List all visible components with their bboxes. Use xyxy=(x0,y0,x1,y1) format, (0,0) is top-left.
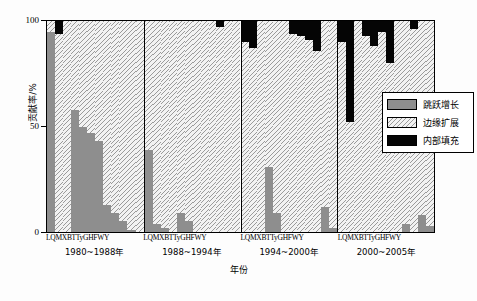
bar-group xyxy=(241,21,338,232)
stacked-bar[interactable] xyxy=(71,21,79,232)
stacked-bar[interactable] xyxy=(63,21,71,232)
legend-swatch-leap xyxy=(387,99,417,110)
leap-growth-segment xyxy=(153,224,161,232)
leap-growth-segment xyxy=(185,221,193,232)
stacked-bar[interactable] xyxy=(313,21,321,232)
stacked-bar[interactable] xyxy=(329,21,337,232)
legend-item[interactable]: 边缘扩展 xyxy=(387,116,469,129)
inner-fill-segment xyxy=(410,21,418,29)
legend-swatch-inner xyxy=(387,135,417,146)
edge-expansion-segment xyxy=(313,51,321,232)
stacked-bar[interactable] xyxy=(362,21,370,232)
stacked-bar[interactable] xyxy=(177,21,185,232)
stacked-bar[interactable] xyxy=(232,21,240,232)
edge-expansion-segment xyxy=(209,21,217,232)
bar-group xyxy=(144,21,241,232)
edge-expansion-segment xyxy=(185,21,193,221)
legend-label-leap: 跳跃增长 xyxy=(423,98,459,111)
legend-label-inner: 内部填充 xyxy=(423,134,459,147)
stacked-bar[interactable] xyxy=(103,21,111,232)
edge-expansion-segment xyxy=(289,34,297,232)
edge-expansion-segment xyxy=(362,36,370,232)
stacked-bar[interactable] xyxy=(95,21,103,232)
edge-expansion-segment xyxy=(305,40,313,232)
edge-expansion-segment xyxy=(79,21,87,127)
edge-expansion-segment xyxy=(242,42,250,232)
inner-fill-segment xyxy=(386,21,394,63)
x-tick-group-label: LQMXBTTyGHFWY xyxy=(143,234,240,242)
stacked-bar[interactable] xyxy=(297,21,305,232)
bar-group xyxy=(47,21,144,232)
leap-growth-segment xyxy=(265,167,273,232)
stacked-bar[interactable] xyxy=(224,21,232,232)
leap-growth-segment xyxy=(418,215,426,232)
inner-fill-segment xyxy=(249,21,257,48)
leap-growth-segment xyxy=(145,150,153,232)
stacked-bar[interactable] xyxy=(305,21,313,232)
stacked-bar[interactable] xyxy=(153,21,161,232)
stacked-bar[interactable] xyxy=(87,21,95,232)
edge-expansion-segment xyxy=(193,21,201,232)
edge-expansion-segment xyxy=(321,21,329,207)
x-axis-title: 年份 xyxy=(0,263,477,276)
edge-expansion-segment xyxy=(232,21,240,232)
edge-expansion-segment xyxy=(265,21,273,167)
stacked-bar[interactable] xyxy=(370,21,378,232)
stacked-bar[interactable] xyxy=(185,21,193,232)
leap-growth-segment xyxy=(79,127,87,233)
legend-item[interactable]: 内部填充 xyxy=(387,134,469,147)
stacked-bar[interactable] xyxy=(257,21,265,232)
stacked-bar[interactable] xyxy=(289,21,297,232)
stacked-bar[interactable] xyxy=(201,21,209,232)
leap-growth-segment xyxy=(273,213,281,232)
edge-expansion-segment xyxy=(354,21,362,232)
stacked-bar[interactable] xyxy=(119,21,127,232)
plot-area xyxy=(46,20,435,233)
edge-expansion-segment xyxy=(153,21,161,224)
edge-expansion-segment xyxy=(297,36,305,232)
stacked-bar[interactable] xyxy=(193,21,201,232)
legend-label-edge: 边缘扩展 xyxy=(423,116,459,129)
stacked-bar[interactable] xyxy=(354,21,362,232)
legend-item[interactable]: 跳跃增长 xyxy=(387,98,469,111)
leap-growth-segment xyxy=(95,141,103,232)
stacked-bar[interactable] xyxy=(55,21,63,232)
stacked-bar[interactable] xyxy=(338,21,346,232)
edge-expansion-segment xyxy=(273,21,281,213)
stacked-bar[interactable] xyxy=(265,21,273,232)
inner-fill-segment xyxy=(305,21,313,40)
leap-growth-segment xyxy=(321,207,329,232)
stacked-bar[interactable] xyxy=(79,21,87,232)
stacked-bar[interactable] xyxy=(321,21,329,232)
stacked-bar[interactable] xyxy=(249,21,257,232)
leap-growth-segment xyxy=(127,230,135,232)
period-labels: 1980~1988年1988~1994年1994~2000年2000~2005年 xyxy=(46,247,435,257)
stacked-bar[interactable] xyxy=(111,21,119,232)
y-tick-label-0: 0 xyxy=(0,228,39,237)
leap-growth-segment xyxy=(111,213,119,232)
stacked-bar[interactable] xyxy=(136,21,144,232)
x-tick-group-label: LQMXBTTyGHFWY xyxy=(241,234,338,242)
edge-expansion-segment xyxy=(346,122,354,232)
inner-fill-segment xyxy=(289,21,297,34)
stacked-bar[interactable] xyxy=(169,21,177,232)
edge-expansion-segment xyxy=(201,21,209,232)
edge-expansion-segment xyxy=(329,21,337,228)
stacked-bar[interactable] xyxy=(281,21,289,232)
period-label: 1988~1994年 xyxy=(143,247,240,257)
inner-fill-segment xyxy=(338,21,346,42)
stacked-bar[interactable] xyxy=(209,21,217,232)
stacked-bar[interactable] xyxy=(216,21,224,232)
stacked-bar[interactable] xyxy=(127,21,135,232)
stacked-bar[interactable] xyxy=(161,21,169,232)
period-label: 2000~2005年 xyxy=(338,247,435,257)
edge-expansion-segment xyxy=(127,21,135,230)
chart-figure: 贡献率/% 100 50 0 LQMXBTTyGHFWYLQMXBTTyGHFW… xyxy=(0,0,477,301)
y-tick-label-50: 50 xyxy=(0,122,39,131)
stacked-bar[interactable] xyxy=(145,21,153,232)
stacked-bar[interactable] xyxy=(273,21,281,232)
stacked-bar[interactable] xyxy=(242,21,250,232)
stacked-bar[interactable] xyxy=(346,21,354,232)
inner-fill-segment xyxy=(346,21,354,122)
stacked-bar[interactable] xyxy=(47,21,55,232)
